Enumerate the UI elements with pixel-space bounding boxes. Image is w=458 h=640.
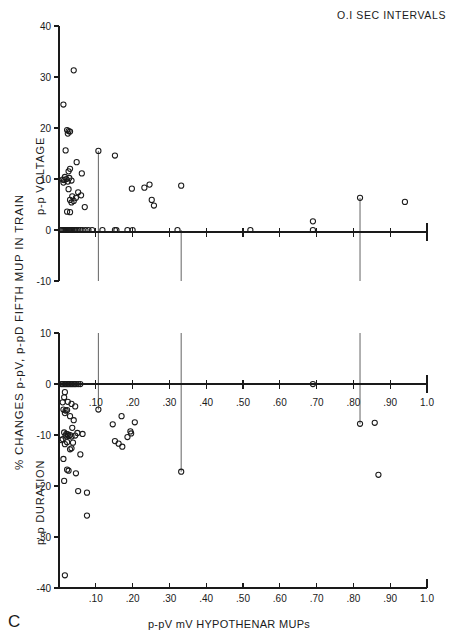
panel-letter: C [8, 612, 20, 632]
x-tick-label: .40 [199, 397, 213, 408]
data-point [71, 68, 76, 73]
x-tick-label: .60 [273, 593, 287, 604]
y-axis-label-voltage: p-p VOLTAGE [34, 137, 46, 215]
x-axis-label: p-pV mV HYPOTHENAR MUPs [0, 618, 458, 630]
x-tick-label: .50 [236, 397, 250, 408]
x-tick-label: .50 [236, 593, 250, 604]
data-point [76, 190, 81, 195]
x-tick-label: .20 [126, 397, 140, 408]
data-point [79, 171, 84, 176]
data-point [129, 186, 134, 191]
data-point [73, 404, 78, 409]
data-point [70, 425, 75, 430]
data-point [71, 418, 76, 423]
data-point [147, 182, 152, 187]
data-point [120, 444, 125, 449]
x-tick-label: .30 [162, 397, 176, 408]
data-point [84, 490, 89, 495]
data-point [73, 471, 78, 476]
data-point [142, 185, 147, 190]
data-point [112, 439, 117, 444]
chart-duration: -40-30-20-10010.10.20.30.40.50.60.70.80.… [37, 328, 435, 604]
y-tick-label: 40 [40, 21, 52, 32]
y-axis-label-main: % CHANGES p-pV, p-pD FIFTH MUP IN TRAIN [13, 194, 25, 470]
data-point [151, 203, 156, 208]
x-tick-label: .20 [126, 593, 140, 604]
x-tick-label: .80 [346, 593, 360, 604]
x-tick-label: 1.0 [420, 593, 434, 604]
data-point [70, 440, 75, 445]
y-tick-label: -40 [37, 583, 52, 594]
x-tick-label: .30 [162, 593, 176, 604]
data-point [110, 422, 115, 427]
x-tick-label: .60 [273, 397, 287, 408]
data-point [372, 420, 377, 425]
y-tick-label: 0 [45, 225, 51, 236]
y-tick-label: -10 [37, 430, 52, 441]
data-point [310, 219, 315, 224]
x-tick-label: .10 [89, 397, 103, 408]
data-point [402, 199, 407, 204]
data-point [78, 452, 83, 457]
x-tick-label: .90 [383, 397, 397, 408]
data-point [66, 468, 71, 473]
y-tick-label: 10 [40, 328, 52, 339]
x-tick-label: .90 [383, 593, 397, 604]
y-tick-label: 20 [40, 123, 52, 134]
x-tick-label: 1.0 [420, 397, 434, 408]
y-axis-label-duration: p-p DURATION [34, 460, 46, 545]
x-tick-label: .70 [310, 397, 324, 408]
x-tick-label: .80 [346, 397, 360, 408]
data-point [66, 187, 71, 192]
header-note: O.I SEC INTERVALS [337, 9, 446, 21]
data-point [149, 197, 154, 202]
y-tick-label: 30 [40, 72, 52, 83]
scatter-plots: -10010203040 -40-30-20-10010.10.20.30.40… [0, 0, 458, 640]
data-point [119, 414, 124, 419]
figure-panel-c: O.I SEC INTERVALS % CHANGES p-pV, p-pD F… [0, 0, 458, 640]
data-point [76, 489, 81, 494]
y-tick-label: 0 [45, 379, 51, 390]
data-point [82, 204, 87, 209]
data-point [132, 420, 137, 425]
data-point [80, 431, 85, 436]
data-point [62, 390, 67, 395]
data-point [74, 160, 79, 165]
data-point [69, 446, 74, 451]
data-point [112, 153, 117, 158]
chart-voltage: -10010203040 [37, 21, 427, 287]
data-point [84, 513, 89, 518]
y-tick-label: -10 [37, 276, 52, 287]
data-point [78, 193, 83, 198]
data-point [63, 148, 68, 153]
data-point [61, 456, 66, 461]
data-point [179, 183, 184, 188]
data-point [60, 400, 65, 405]
data-point [62, 573, 67, 578]
data-point [376, 472, 381, 477]
x-tick-label: .40 [199, 593, 213, 604]
data-point [61, 102, 66, 107]
data-point [62, 478, 67, 483]
x-tick-label: .10 [89, 593, 103, 604]
x-tick-label: .70 [310, 593, 324, 604]
data-point [62, 395, 67, 400]
